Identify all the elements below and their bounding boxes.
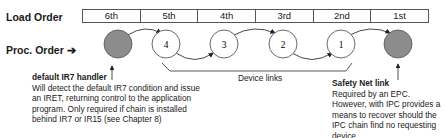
- node-label: 4: [164, 40, 169, 50]
- safety-net-note: Safety Net link Required by an EPC. Howe…: [332, 78, 446, 138]
- link-arrow: [350, 29, 390, 35]
- ir7-note-body: Will detect the default IR7 condition an…: [32, 83, 200, 125]
- link-arrow: [234, 29, 275, 35]
- device-links-label: Device links: [238, 73, 282, 83]
- safety-note-body: Required by an EPC. However, with IPC pr…: [332, 89, 440, 138]
- ir7-note-title: default IR7 handler: [32, 72, 202, 83]
- default-handler-node: [104, 30, 132, 58]
- link-arrow: [176, 53, 213, 60]
- safety-note-title: Safety Net link: [332, 78, 446, 89]
- node-label: 3: [222, 40, 227, 50]
- link-arrow: [292, 53, 332, 60]
- safety-net-node: [384, 30, 412, 58]
- node-label: 2: [281, 40, 286, 50]
- device-links-bracket: [162, 63, 352, 71]
- node-label: 1: [339, 40, 344, 50]
- ir7-handler-note: default IR7 handler Will detect the defa…: [32, 72, 202, 125]
